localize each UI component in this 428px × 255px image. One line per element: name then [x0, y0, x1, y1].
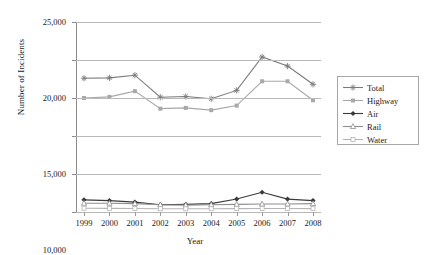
legend-item-water[interactable]: Water [338, 133, 418, 146]
x-axis-tick [262, 212, 263, 216]
legend-label: Rail [367, 122, 381, 132]
y-axis-tick: 5,000 [72, 174, 76, 175]
x-axis-tick-label: 2005 [228, 218, 245, 228]
x-axis-tick [237, 212, 238, 216]
y-axis-title: Number of Incidents [16, 12, 26, 142]
y-axis-tick-label: 10,000 [43, 245, 66, 255]
x-axis-tick [109, 212, 110, 216]
legend-label: Air [367, 109, 378, 119]
legend-marker-icon [342, 95, 364, 106]
x-axis-tick-label: 2006 [254, 218, 271, 228]
legend-item-air[interactable]: Air [338, 107, 418, 120]
x-axis-tick [186, 212, 187, 216]
gridline [76, 98, 321, 99]
chart-legend: TotalHighwayAirRailWater [337, 76, 419, 145]
x-axis-tick-label: 2000 [101, 218, 118, 228]
x-axis-tick [288, 212, 289, 216]
legend-marker-icon [342, 108, 364, 119]
series-highway [82, 79, 315, 112]
y-axis-tick: 15,000 [72, 98, 76, 99]
legend-item-rail[interactable]: Rail [338, 120, 418, 133]
legend-item-highway[interactable]: Highway [338, 94, 418, 107]
gridline [76, 136, 321, 137]
legend-marker-icon [342, 82, 364, 93]
x-axis-tick [211, 212, 212, 216]
gridline [76, 174, 321, 175]
legend-label: Total [367, 83, 384, 93]
y-axis-tick-label: 15,000 [43, 169, 66, 179]
gridline [76, 60, 321, 61]
y-axis-tick-label: 20,000 [43, 93, 66, 103]
x-axis-tick-label: 2001 [126, 218, 143, 228]
series-water [82, 206, 315, 211]
x-axis-tick-label: 2008 [305, 218, 322, 228]
x-axis-tick [313, 212, 314, 216]
y-axis-tick: 20,000 [72, 60, 76, 61]
legend-marker-icon [342, 134, 364, 145]
series-total [81, 54, 316, 102]
x-axis-tick-label: 2007 [279, 218, 296, 228]
y-axis-tick: 10,000 [72, 136, 76, 137]
chart-figure: Number of Incidents Year 05,00010,00015,… [0, 0, 428, 255]
y-axis-tick: 25,000 [72, 22, 76, 23]
gridline [76, 22, 321, 23]
series-layer [76, 22, 321, 212]
x-axis-tick-label: 2002 [152, 218, 169, 228]
x-axis-tick-label: 2003 [177, 218, 194, 228]
legend-label: Water [367, 135, 387, 145]
plot-area: 05,00010,00015,00020,00025,0001999200020… [76, 22, 321, 212]
x-axis-tick [160, 212, 161, 216]
y-axis-tick: 0 [72, 212, 76, 213]
x-axis-tick-label: 2004 [203, 218, 220, 228]
x-axis-tick-label: 1999 [76, 218, 93, 228]
x-axis-tick [135, 212, 136, 216]
legend-marker-icon [342, 121, 364, 132]
legend-item-total[interactable]: Total [338, 81, 418, 94]
gridline [76, 212, 321, 213]
x-axis-tick [84, 212, 85, 216]
legend-label: Highway [367, 96, 398, 106]
y-axis-tick-label: 25,000 [43, 17, 66, 27]
